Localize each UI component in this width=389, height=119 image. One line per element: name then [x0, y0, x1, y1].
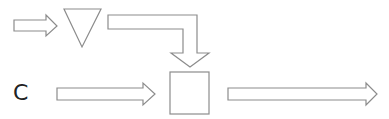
square-node: [170, 72, 209, 114]
input-arrow: [14, 15, 57, 36]
input-label-c: C: [13, 82, 28, 104]
c-to-square-arrow: [57, 83, 155, 105]
elbow-arrow: [108, 15, 209, 67]
output-arrow: [228, 83, 377, 105]
diagram-canvas: [0, 0, 389, 119]
triangle-node: [64, 9, 101, 47]
